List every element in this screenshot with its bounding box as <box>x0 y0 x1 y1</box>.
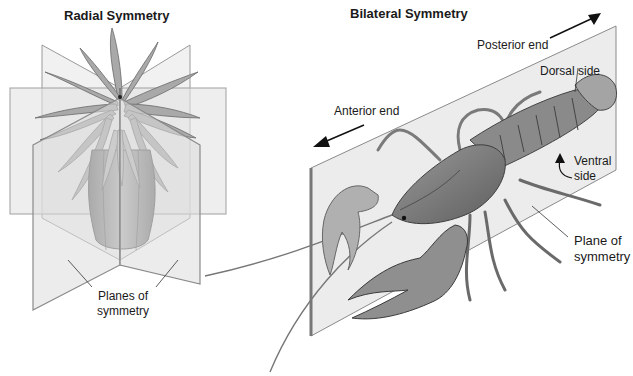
plane-of-symmetry-label-line1: Plane of <box>574 233 630 249</box>
diagram-artwork <box>0 0 633 376</box>
plane-of-symmetry-label-line2: symmetry <box>574 249 630 265</box>
radial-symmetry-group <box>10 28 226 310</box>
ventral-side-label: Ventral side <box>574 154 611 184</box>
radial-planes-label-line2: symmetry <box>88 304 158 319</box>
posterior-arrow <box>550 13 601 38</box>
radial-title: Radial Symmetry <box>64 8 170 23</box>
radial-planes-label: Planes of symmetry <box>88 289 158 319</box>
plane-of-symmetry-label: Plane of symmetry <box>574 233 630 265</box>
anemone-mouth <box>118 95 122 99</box>
crayfish-eye <box>402 216 406 220</box>
dorsal-side-label: Dorsal side <box>540 64 600 79</box>
radial-planes-label-line1: Planes of <box>88 289 158 304</box>
anterior-arrow <box>313 125 364 147</box>
plane-leader <box>532 206 568 237</box>
anterior-end-label: Anterior end <box>334 104 399 119</box>
ventral-side-label-line2: side <box>574 169 611 184</box>
posterior-end-label: Posterior end <box>477 38 548 53</box>
bilateral-title: Bilateral Symmetry <box>350 6 468 21</box>
ventral-side-label-line1: Ventral <box>574 154 611 169</box>
